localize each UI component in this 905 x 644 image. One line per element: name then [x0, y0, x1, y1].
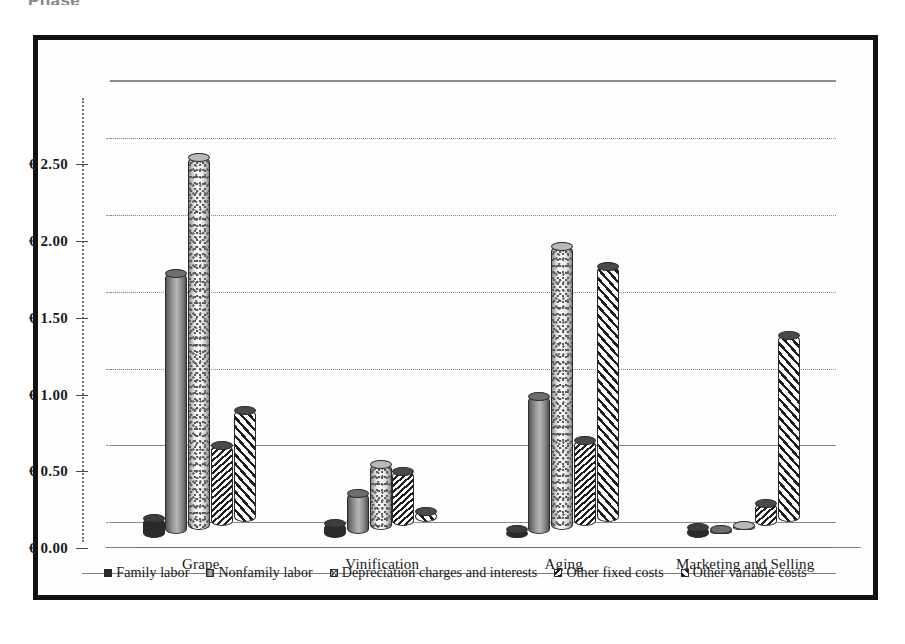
bar-group	[655, 58, 837, 548]
legend-swatch-icon	[681, 569, 689, 577]
legend-swatch-icon	[206, 569, 214, 577]
bar	[687, 527, 709, 538]
legend-item[interactable]: Family labor	[104, 565, 189, 581]
bar-top-cap	[188, 153, 210, 162]
y-axis-tick-label: € 1.00	[29, 386, 68, 403]
bar-top-cap	[733, 521, 755, 530]
bar	[188, 157, 210, 530]
bar	[506, 529, 528, 538]
y-axis-tick-label: € 1.50	[29, 309, 68, 326]
bar-top-cap	[347, 489, 369, 498]
bar-group	[110, 58, 292, 548]
bar	[528, 396, 550, 534]
bar-top-cap	[755, 499, 777, 508]
bar	[574, 440, 596, 526]
bar	[143, 518, 165, 538]
legend-label: Other variable costs	[693, 565, 807, 581]
bar	[234, 410, 256, 522]
y-axis-tick-label: € 2.00	[29, 233, 68, 250]
bar-top-cap	[165, 269, 187, 278]
bar	[551, 246, 573, 530]
bar	[165, 273, 187, 534]
bar	[710, 529, 732, 534]
bar-top-cap	[324, 519, 346, 528]
legend-label: Other fixed costs	[566, 565, 663, 581]
y-axis-tick-label: € 0.50	[29, 463, 68, 480]
legend-swatch-icon	[104, 569, 112, 577]
y-axis-tick-label: € 2.50	[29, 156, 68, 173]
bar-group	[473, 58, 655, 548]
bar	[324, 523, 346, 538]
bar	[211, 445, 233, 526]
legend-label: Nonfamily labor	[218, 565, 312, 581]
bar	[755, 503, 777, 526]
bar-top-cap	[551, 242, 573, 251]
bar-top-cap	[574, 436, 596, 445]
top-caption: Phase	[28, 0, 80, 5]
bar	[370, 464, 392, 530]
chart-figure: € 0.00€ 0.50€ 1.00€ 1.50€ 2.00€ 2.50 Gra…	[33, 35, 878, 600]
legend-item[interactable]: Nonfamily labor	[206, 565, 312, 581]
floor-back-edge	[110, 547, 836, 548]
bar-top-cap	[415, 507, 437, 516]
y-axis-tick	[76, 395, 88, 396]
bar-top-cap	[528, 392, 550, 401]
legend-swatch-icon	[554, 569, 562, 577]
bar	[778, 335, 800, 522]
bar	[415, 511, 437, 522]
y-axis-tick	[76, 318, 88, 319]
y-axis-tick	[76, 471, 88, 472]
bar-groups	[110, 58, 836, 548]
legend-item[interactable]: Depreciation charges and interests	[330, 565, 538, 581]
bar	[597, 266, 619, 522]
bar-top-cap	[143, 514, 165, 523]
legend-label: Depreciation charges and interests	[342, 565, 538, 581]
bar-top-cap	[597, 262, 619, 271]
bar-top-cap	[506, 525, 528, 534]
bar	[347, 493, 369, 534]
legend-label: Family labor	[116, 565, 189, 581]
y-axis-tick	[76, 241, 88, 242]
bar-top-cap	[710, 525, 732, 534]
y-axis-tick	[76, 548, 88, 549]
bar-top-cap	[370, 460, 392, 469]
bar	[392, 471, 414, 526]
y-axis-tick	[76, 164, 88, 165]
bar-top-cap	[211, 441, 233, 450]
plot-area: € 0.00€ 0.50€ 1.00€ 1.50€ 2.00€ 2.50	[110, 58, 836, 548]
y-axis-tick-label: € 0.00	[29, 540, 68, 557]
bar-top-cap	[687, 523, 709, 532]
legend-item[interactable]: Other variable costs	[681, 565, 807, 581]
bar-group	[292, 58, 474, 548]
bar-top-cap	[778, 331, 800, 340]
bar-top-cap	[392, 467, 414, 476]
bar-top-cap	[234, 406, 256, 415]
legend-swatch-icon	[330, 569, 338, 577]
chart-legend: Family laborNonfamily laborDepreciation …	[38, 565, 873, 581]
bar	[733, 525, 755, 530]
legend-item[interactable]: Other fixed costs	[554, 565, 663, 581]
